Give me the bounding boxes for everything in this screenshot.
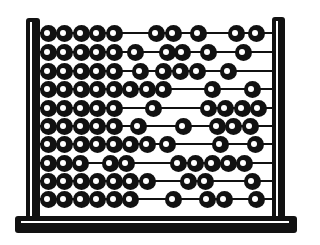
bead[interactable] [102,155,119,172]
bead[interactable] [56,173,73,190]
bead[interactable] [242,118,259,135]
bead[interactable] [132,63,149,80]
bead[interactable] [56,25,73,42]
bead[interactable] [40,100,57,117]
bead[interactable] [56,136,73,153]
bead[interactable] [225,118,242,135]
bead[interactable] [106,25,123,42]
bead[interactable] [106,136,123,153]
bead[interactable] [73,118,90,135]
bead[interactable] [73,63,90,80]
bead[interactable] [89,44,106,61]
bead[interactable] [122,81,139,98]
bead[interactable] [204,81,221,98]
bead[interactable] [106,44,123,61]
bead[interactable] [40,155,57,172]
bead[interactable] [244,81,261,98]
bead[interactable] [159,136,176,153]
bead[interactable] [40,63,57,80]
bead[interactable] [159,44,176,61]
bead[interactable] [130,118,147,135]
bead[interactable] [236,155,253,172]
bead[interactable] [40,44,57,61]
bead[interactable] [172,63,189,80]
bead[interactable] [199,191,216,208]
bead[interactable] [89,118,106,135]
bead[interactable] [89,25,106,42]
bead[interactable] [235,44,252,61]
bead[interactable] [220,63,237,80]
bead[interactable] [174,44,191,61]
bead[interactable] [189,63,206,80]
bead[interactable] [40,136,57,153]
bead[interactable] [89,81,106,98]
bead[interactable] [73,100,90,117]
bead[interactable] [73,25,90,42]
bead[interactable] [165,25,182,42]
bead[interactable] [139,81,156,98]
bead[interactable] [216,191,233,208]
bead[interactable] [122,173,139,190]
bead[interactable] [106,81,123,98]
bead[interactable] [170,155,187,172]
bead[interactable] [248,25,265,42]
bead[interactable] [73,136,90,153]
bead[interactable] [56,155,73,172]
bead[interactable] [72,155,89,172]
bead[interactable] [175,118,192,135]
bead[interactable] [73,81,90,98]
bead[interactable] [106,118,123,135]
bead[interactable] [40,191,57,208]
bead[interactable] [56,191,73,208]
bead[interactable] [244,173,261,190]
bead[interactable] [139,173,156,190]
bead[interactable] [180,173,197,190]
bead[interactable] [148,25,165,42]
bead[interactable] [89,136,106,153]
bead[interactable] [106,191,123,208]
bead[interactable] [106,63,123,80]
bead[interactable] [40,81,57,98]
bead[interactable] [122,191,139,208]
bead[interactable] [56,63,73,80]
bead[interactable] [106,100,123,117]
bead[interactable] [106,173,123,190]
bead[interactable] [220,155,237,172]
bead[interactable] [73,44,90,61]
bead[interactable] [56,81,73,98]
bead[interactable] [56,44,73,61]
bead[interactable] [250,100,267,117]
bead[interactable] [247,136,264,153]
bead[interactable] [127,44,144,61]
bead[interactable] [155,81,172,98]
bead[interactable] [139,136,156,153]
bead[interactable] [165,191,182,208]
bead[interactable] [89,100,106,117]
bead[interactable] [190,25,207,42]
bead[interactable] [212,136,229,153]
bead[interactable] [155,63,172,80]
bead[interactable] [89,191,106,208]
bead[interactable] [73,173,90,190]
bead[interactable] [204,155,221,172]
bead[interactable] [248,191,265,208]
bead[interactable] [118,155,135,172]
bead[interactable] [187,155,204,172]
bead[interactable] [40,118,57,135]
bead[interactable] [122,136,139,153]
bead[interactable] [145,100,162,117]
bead[interactable] [200,44,217,61]
bead[interactable] [56,100,73,117]
bead[interactable] [200,100,217,117]
bead[interactable] [228,25,245,42]
bead[interactable] [197,173,214,190]
bead[interactable] [234,100,251,117]
bead[interactable] [217,100,234,117]
bead[interactable] [209,118,226,135]
bead[interactable] [40,25,57,42]
bead[interactable] [56,118,73,135]
bead[interactable] [73,191,90,208]
bead[interactable] [89,63,106,80]
bead[interactable] [40,173,57,190]
bead[interactable] [89,173,106,190]
